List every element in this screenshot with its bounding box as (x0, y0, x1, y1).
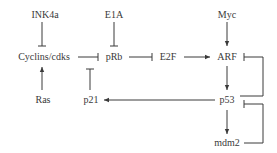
node-ink4a: INK4a (31, 9, 58, 21)
edge-e1a-inhibits-prb (110, 22, 118, 46)
node-arf: ARF (217, 51, 236, 63)
node-ras: Ras (36, 94, 51, 106)
node-p53: p53 (220, 94, 235, 106)
edge-mdm2-inhibits-p53 (244, 100, 263, 143)
edge-cyclins-inhibits-prb (78, 53, 98, 61)
node-mdm2: mdm2 (214, 137, 240, 149)
edge-p21-inhibits (86, 69, 94, 90)
node-p21: p21 (84, 94, 99, 106)
node-prb: pRb (106, 51, 123, 63)
node-e1a: E1A (105, 9, 123, 21)
node-cyclins-cdks: Cyclins/cdks (18, 51, 70, 63)
edge-ink4a-inhibits-cyclins (38, 22, 46, 46)
edge-prb-inhibits-e2f (129, 53, 152, 61)
node-e2f: E2F (160, 51, 177, 63)
pathway-edges (0, 0, 277, 153)
edge-p53-inhibits-arf (240, 53, 263, 96)
node-myc: Myc (218, 9, 236, 21)
